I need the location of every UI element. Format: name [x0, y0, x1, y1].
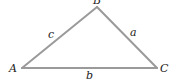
triangle-diagram: B A C c a b: [0, 0, 177, 81]
vertex-label-a: A: [8, 62, 17, 75]
vertex-label-b: B: [92, 0, 101, 7]
side-label-b: b: [86, 69, 93, 81]
side-label-c: c: [48, 28, 54, 41]
side-label-a: a: [130, 26, 137, 39]
side-a-line: [97, 7, 157, 68]
vertex-label-c: C: [160, 62, 169, 75]
side-c-line: [22, 7, 97, 68]
